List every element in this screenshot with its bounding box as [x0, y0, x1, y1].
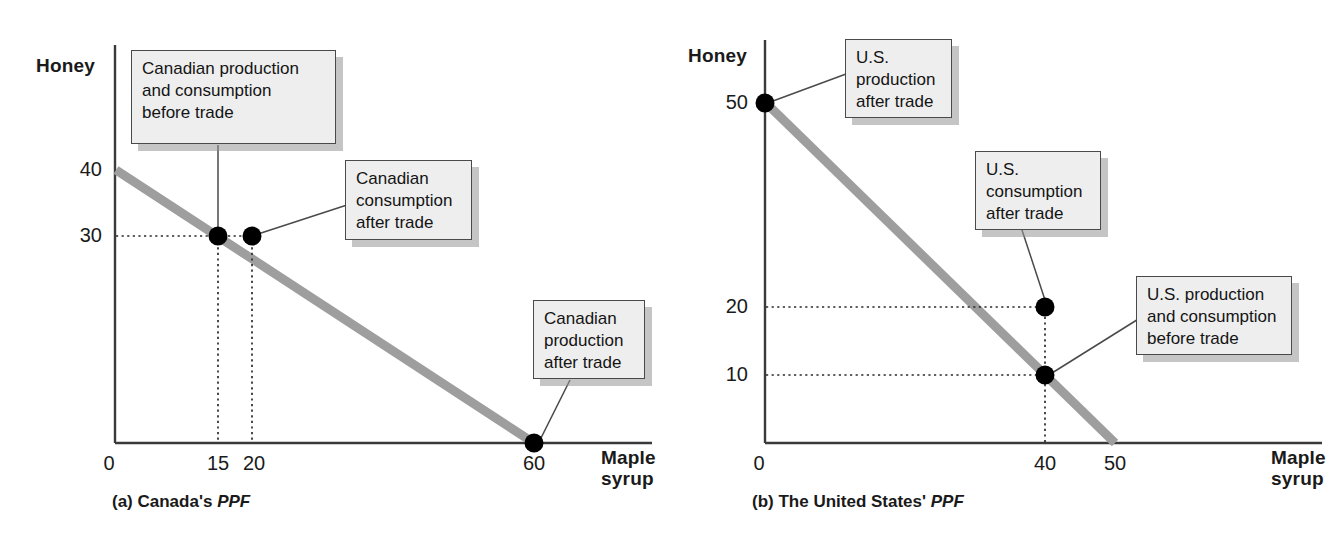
x-axis-title-maple-syrup: Maple syrup [601, 447, 656, 490]
origin-label: 0 [94, 452, 124, 475]
panel-b-caption-prefix: (b) The United States' [752, 492, 931, 511]
panel-a-caption: (a) Canada's PPF [112, 492, 250, 512]
callout-us-production-after-trade: U.S. production after trade [845, 39, 952, 118]
x-tick-label-60: 60 [516, 452, 552, 475]
panel-b-caption: (b) The United States' PPF [752, 492, 964, 512]
y-axis-title-honey: Honey [688, 45, 747, 67]
y-axis-title-honey: Honey [36, 55, 95, 77]
x-axis-title-maple-syrup: Maple syrup [1271, 447, 1326, 490]
callout-us-before-trade: U.S. production and consumption before t… [1136, 276, 1292, 355]
y-tick-label-10: 10 [704, 363, 748, 386]
leader-line-consumption-after-trade [258, 205, 347, 234]
panel-us-ppf: Honey Maple syrup 50 20 10 0 40 50 U.S. … [670, 0, 1340, 555]
x-tick-label-40: 40 [1027, 452, 1063, 475]
panel-a-caption-prefix: (a) Canada's [112, 492, 217, 511]
x-tick-label-15: 15 [200, 452, 236, 475]
x-tick-label-20: 20 [236, 452, 272, 475]
ppf-comparison-figure: Honey Maple syrup 40 30 0 15 20 60 Canad… [0, 0, 1340, 555]
panel-b-caption-italic: PPF [931, 492, 964, 511]
data-point-us-consumption-after-trade [1036, 298, 1055, 317]
origin-label: 0 [744, 452, 774, 475]
data-point-us-before-trade [1036, 366, 1055, 385]
data-point-canada-before-trade [209, 227, 228, 246]
callout-canada-production-after-trade: Canadian production after trade [533, 300, 645, 379]
leader-line-us-consumption-after-trade [1022, 230, 1045, 300]
panel-a-caption-italic: PPF [217, 492, 250, 511]
y-tick-label-40: 40 [58, 158, 102, 181]
data-point-canada-consumption-after-trade [243, 227, 262, 246]
leader-line-production-after-trade [540, 380, 570, 440]
data-point-us-production-after-trade [756, 94, 775, 113]
y-tick-label-50: 50 [704, 91, 748, 114]
panel-canada-ppf: Honey Maple syrup 40 30 0 15 20 60 Canad… [0, 0, 670, 555]
x-tick-label-50: 50 [1097, 452, 1133, 475]
callout-canada-consumption-after-trade: Canadian consumption after trade [345, 160, 472, 240]
leader-line-us-production-after-trade [773, 74, 846, 101]
leader-line-us-before-trade [1052, 318, 1140, 373]
y-tick-label-20: 20 [704, 295, 748, 318]
callout-us-consumption-after-trade: U.S. consumption after trade [975, 151, 1101, 230]
data-point-canada-production-after-trade [525, 434, 544, 453]
y-tick-label-30: 30 [58, 224, 102, 247]
callout-canada-before-trade: Canadian production and consumption befo… [131, 50, 336, 144]
